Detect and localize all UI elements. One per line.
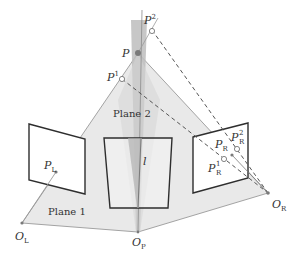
svg-text:P: P [207, 162, 216, 175]
point-PR [230, 153, 233, 156]
point-OL [20, 221, 23, 224]
epipolar-diagram: P P1 P2 Plane 2 l PL Plane 1 PR P 1 R P … [0, 0, 299, 261]
point-PR1 [221, 156, 226, 161]
left-image-plane [29, 124, 85, 194]
svg-text:1: 1 [216, 160, 220, 168]
point-OR [266, 191, 270, 195]
label-OR: OR [272, 198, 287, 213]
label-OL: OL [15, 230, 29, 245]
svg-text:2: 2 [239, 129, 243, 137]
svg-text:P: P [230, 131, 239, 144]
point-PR2 [234, 146, 239, 151]
label-plane-1: Plane 1 [48, 206, 86, 217]
label-OP: OP [132, 236, 146, 251]
label-l: l [143, 155, 147, 168]
point-P1 [119, 76, 124, 81]
svg-text:R: R [239, 138, 245, 146]
label-PR2: P 2 R [230, 129, 245, 146]
label-P1: P1 [106, 70, 119, 84]
point-P2 [149, 28, 154, 33]
point-OP [137, 231, 140, 234]
svg-text:R: R [216, 169, 222, 177]
label-plane-2: Plane 2 [113, 108, 151, 119]
label-P: P [121, 47, 130, 60]
label-PR1: P 1 R [207, 160, 222, 177]
point-P [135, 50, 141, 56]
